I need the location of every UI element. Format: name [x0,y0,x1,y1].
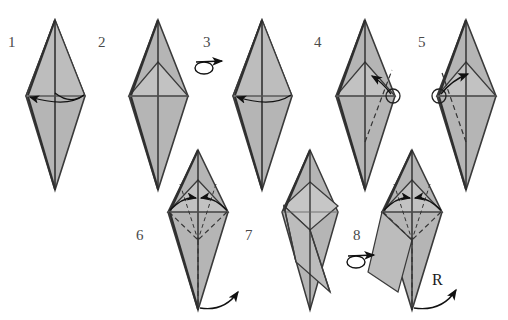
diagram-svg: 1 2 3 4 [0,0,508,320]
step-number-5: 5 [418,34,426,50]
figure-5: 5 [418,20,496,190]
step-number-2: 2 [98,34,106,50]
step-number-4: 4 [314,34,322,50]
figure-4: 4 [314,20,400,190]
step-number-7: 7 [245,227,253,243]
step-number-3: 3 [203,34,211,50]
step-number-1: 1 [8,34,16,50]
figure-6: 6 [136,150,238,310]
turnover-loop-icon [195,62,213,74]
figure-2: 2 [98,20,188,190]
figure-1: 1 [8,20,85,190]
repeat-label: R [432,271,443,288]
step-number-6: 6 [136,227,144,243]
origami-diagram-canvas: 1 2 3 4 [0,0,508,320]
figure-3: 3 [195,20,292,190]
turnover-loop-icon [347,256,365,268]
step-number-8: 8 [353,227,361,243]
fig8-repeat-arrow [414,290,456,309]
turnover-arrow-icon [348,255,374,256]
turnover-arrow-icon [196,61,222,62]
fig6-swing-arrow [200,292,238,309]
turn-over-symbol-3 [195,61,222,74]
